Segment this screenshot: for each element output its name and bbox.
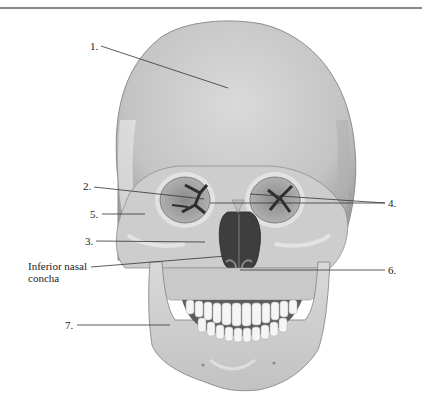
skull-illustration xyxy=(0,0,422,411)
label-6: 6. xyxy=(388,264,396,276)
label-1: 1. xyxy=(90,40,98,52)
left-orbit xyxy=(155,172,215,228)
maxilla xyxy=(150,268,330,300)
label-7: 7. xyxy=(65,319,73,331)
label-4: 4. xyxy=(388,197,396,209)
label-2: 2. xyxy=(83,180,91,192)
label-inferior-nasal-concha: Inferior nasal concha xyxy=(28,260,108,284)
label-5: 5. xyxy=(90,208,98,220)
label-3: 3. xyxy=(85,235,93,247)
